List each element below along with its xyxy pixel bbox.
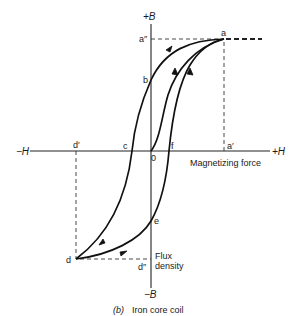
hysteresis-diagram: +B −B −H +H Magnetizing force Flux densi…: [0, 0, 299, 316]
point-d-label: d: [66, 255, 71, 265]
point-c-label: c: [123, 141, 128, 151]
point-a-prime-label: a′: [227, 141, 234, 151]
pos-b-label: +B: [143, 11, 156, 22]
point-d-double-prime-label: d″: [138, 262, 147, 272]
point-b-label: b: [143, 75, 148, 85]
caption-text: Iron core coil: [132, 305, 184, 315]
arrow-initial-icon: [172, 68, 178, 75]
ascending-branch-curve: [76, 39, 224, 259]
magnetizing-force-label: Magnetizing force: [190, 158, 261, 168]
point-a-double-prime-label: a″: [139, 34, 148, 44]
arrow-ascending-bottom-icon: [120, 251, 127, 256]
initial-magnetization-curve: [151, 39, 224, 151]
point-o-label: 0: [151, 153, 156, 163]
arrow-descending-bottom-icon: [99, 239, 105, 245]
flux-density-label-line2: density: [155, 261, 184, 271]
neg-b-label: −B: [144, 289, 157, 300]
point-d-prime-label: d′: [73, 140, 80, 150]
arrow-descending-top-icon: [166, 46, 172, 52]
descending-branch-curve: [76, 39, 224, 259]
point-e-label: e: [154, 216, 159, 226]
point-a-label: a: [221, 28, 226, 38]
neg-h-label: −H: [16, 146, 30, 157]
point-f-label: f: [171, 141, 174, 151]
caption-part: (b): [113, 305, 124, 315]
flux-density-label-line1: Flux: [155, 251, 173, 261]
pos-h-label: +H: [272, 146, 286, 157]
